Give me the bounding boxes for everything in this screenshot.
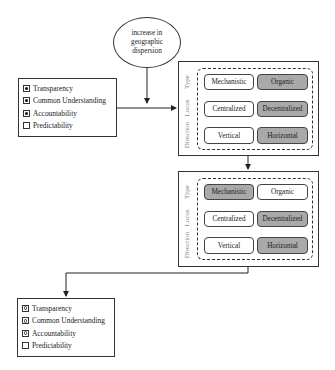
option-vertical: Vertical	[204, 237, 254, 254]
attribute-label: Accountability	[32, 329, 76, 338]
dimension-label-direction: Direction	[183, 230, 191, 260]
attribute-row: Accountability	[22, 327, 114, 340]
option-organic: Organic	[257, 184, 308, 200]
trigger-line: geographic	[131, 38, 163, 47]
attribute-row: Transparency	[23, 82, 116, 95]
option-decentralized-selected: Decentralized	[257, 211, 308, 227]
attribute-box-final: Transparency Common Understanding Accoun…	[17, 298, 115, 357]
option-mechanistic-selected: Mechanistic	[204, 184, 254, 200]
option-vertical: Vertical	[204, 127, 254, 144]
trigger-ellipse: increase in geographic dispersion	[113, 17, 181, 68]
arrow-to-final-attributes	[66, 267, 248, 296]
attribute-label: Predictability	[33, 121, 73, 130]
option-organic-selected: Organic	[257, 74, 308, 90]
configuration-box-second: Type Locus Direction Mechanistic Organic…	[178, 171, 319, 267]
dimension-label-locus: Locus	[183, 203, 191, 233]
attribute-label: Predictability	[32, 341, 72, 350]
attribute-row: Common Understanding	[22, 315, 114, 328]
attribute-row: Common Understanding	[23, 95, 116, 108]
open-circle-checkbox-icon	[22, 317, 29, 324]
attribute-label: Transparency	[33, 84, 73, 93]
filled-dot-checkbox-icon	[23, 85, 30, 92]
filled-dot-checkbox-icon	[23, 97, 30, 104]
dimension-label-locus: Locus	[183, 93, 191, 123]
attribute-row: Predictability	[23, 120, 116, 133]
attribute-row: Accountability	[23, 107, 116, 120]
attribute-label: Accountability	[33, 109, 77, 118]
attribute-box-initial: Transparency Common Understanding Accoun…	[18, 78, 117, 137]
open-circle-checkbox-icon	[22, 330, 29, 337]
dimension-label-direction: Direction	[183, 120, 191, 150]
option-horizontal-selected: Horizontal	[257, 127, 308, 144]
option-decentralized-selected: Decentralized	[257, 101, 308, 117]
attribute-row: Transparency	[22, 302, 114, 315]
filled-dot-checkbox-icon	[23, 110, 30, 117]
attribute-label: Common Understanding	[33, 96, 106, 105]
configuration-box-first: Type Locus Direction Mechanistic Organic…	[178, 61, 319, 156]
open-circle-checkbox-icon	[22, 305, 29, 312]
trigger-line: increase in	[131, 29, 163, 38]
option-centralized: Centralized	[204, 101, 254, 117]
option-centralized: Centralized	[204, 211, 254, 227]
attribute-label: Transparency	[32, 304, 72, 313]
option-horizontal-selected: Horizontal	[257, 237, 308, 254]
empty-checkbox-icon	[22, 342, 29, 349]
attribute-label: Common Understanding	[32, 316, 105, 325]
option-mechanistic: Mechanistic	[204, 74, 254, 90]
attribute-row: Predictability	[22, 340, 114, 353]
empty-checkbox-icon	[23, 122, 30, 129]
trigger-line: dispersion	[131, 47, 163, 56]
